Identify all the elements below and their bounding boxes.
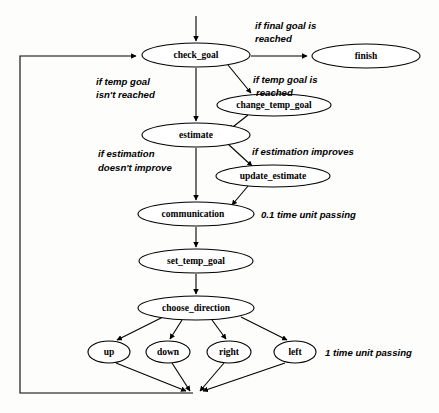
edge-label-time-unit-0-1-line1: 0.1 time unit passing <box>261 209 356 220</box>
edge-label-final-goal-reached: if final goal is reached <box>255 20 316 44</box>
edge-choose-direction-to-up <box>117 316 165 340</box>
edge-label-time-unit-1-line1: 1 time unit passing <box>325 347 412 358</box>
node-label-right: right <box>219 347 240 357</box>
edge-label-estimation-not-improve: if estimation doesn't improve <box>98 148 172 173</box>
edge-label-final-goal-reached-line2: reached <box>255 33 293 44</box>
edge-update-estimate-to-communication <box>232 186 248 205</box>
flowchart-canvas: check_goal finish change_temp_goal estim… <box>0 0 439 413</box>
node-estimate[interactable]: estimate <box>142 123 250 147</box>
edge-left-to-join <box>203 363 285 391</box>
node-up[interactable]: up <box>88 341 130 363</box>
node-label-set-temp-goal: set_temp_goal <box>167 256 225 266</box>
node-communication[interactable]: communication <box>138 202 254 226</box>
node-down[interactable]: down <box>146 341 190 363</box>
edge-label-temp-goal-not-reached-line1: if temp goal <box>96 76 150 87</box>
node-set-temp-goal[interactable]: set_temp_goal <box>139 249 253 273</box>
node-label-choose-direction: choose_direction <box>162 303 231 313</box>
edge-label-estimation-not-improve-line1: if estimation <box>98 148 155 159</box>
node-label-check-goal: check_goal <box>174 50 219 60</box>
node-label-up: up <box>104 347 115 357</box>
edge-estimate-to-update-estimate <box>228 144 252 166</box>
node-update-estimate[interactable]: update_estimate <box>216 165 330 187</box>
edge-label-estimation-not-improve-line2: doesn't improve <box>98 162 172 173</box>
edge-up-to-join <box>116 363 186 391</box>
edge-label-time-unit-1: 1 time unit passing <box>325 347 412 358</box>
node-left[interactable]: left <box>274 341 316 363</box>
node-label-left: left <box>288 347 302 357</box>
node-label-change-temp-goal: change_temp_goal <box>236 100 312 110</box>
node-choose-direction[interactable]: choose_direction <box>138 296 254 320</box>
edge-label-estimation-improves-line1: if estimation improves <box>252 146 354 157</box>
node-label-estimate: estimate <box>179 130 213 140</box>
edge-label-final-goal-reached-line1: if final goal is <box>255 20 316 31</box>
node-check-goal[interactable]: check_goal <box>142 43 250 67</box>
edge-check-goal-to-change-temp-goal <box>228 65 251 93</box>
edge-choose-direction-to-down <box>170 320 182 339</box>
edge-label-time-unit-0-1: 0.1 time unit passing <box>261 209 356 220</box>
node-label-communication: communication <box>162 209 226 219</box>
edge-label-temp-goal-reached: if temp goal is reached <box>253 74 318 98</box>
edge-choose-direction-to-right <box>212 320 226 339</box>
edge-label-temp-goal-not-reached: if temp goal isn't reached <box>96 76 156 100</box>
edge-label-estimation-improves: if estimation improves <box>252 146 354 157</box>
edge-label-temp-goal-reached-line2: reached <box>256 87 294 98</box>
node-right[interactable]: right <box>207 341 251 363</box>
flowchart-svg: check_goal finish change_temp_goal estim… <box>0 0 439 413</box>
edge-label-temp-goal-not-reached-line2: isn't reached <box>96 89 156 100</box>
node-label-down: down <box>157 347 180 357</box>
edge-label-temp-goal-reached-line1: if temp goal is <box>253 74 318 85</box>
node-label-finish: finish <box>355 51 378 61</box>
edge-choose-direction-to-left <box>241 317 287 340</box>
node-label-update-estimate: update_estimate <box>240 171 307 181</box>
node-finish[interactable]: finish <box>312 44 420 68</box>
edge-right-to-join <box>200 363 224 391</box>
